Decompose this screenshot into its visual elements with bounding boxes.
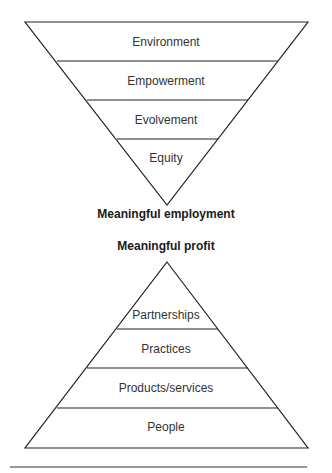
layer-equity: Equity xyxy=(0,151,332,165)
layer-products-services: Products/services xyxy=(0,381,332,395)
label-meaningful-profit: Meaningful profit xyxy=(0,239,332,253)
layer-partnerships: Partnerships xyxy=(0,308,332,322)
layer-people: People xyxy=(0,420,332,434)
label-meaningful-employment: Meaningful employment xyxy=(0,207,332,221)
layer-evolvement: Evolvement xyxy=(0,113,332,127)
layer-environment: Environment xyxy=(0,35,332,49)
diagram-canvas xyxy=(0,0,332,473)
layer-practices: Practices xyxy=(0,342,332,356)
layer-empowerment: Empowerment xyxy=(0,74,332,88)
